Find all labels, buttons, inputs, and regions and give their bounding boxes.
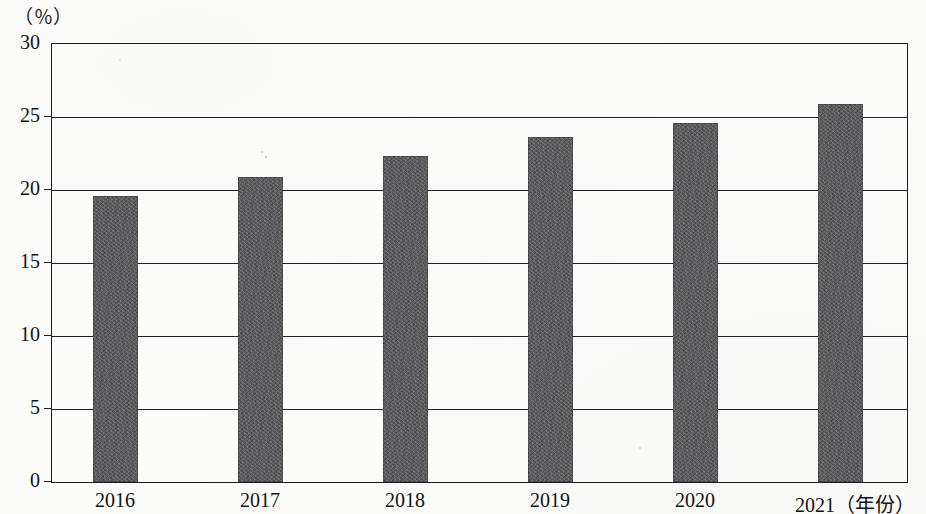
y-tick-mark-20 bbox=[44, 189, 51, 190]
bar-2017 bbox=[238, 177, 283, 482]
gridline-5 bbox=[52, 117, 907, 118]
y-tick-mark-25 bbox=[44, 116, 51, 117]
y-tick-label-5: 5 bbox=[30, 396, 40, 419]
y-tick-label-15: 15 bbox=[20, 250, 40, 273]
plot-area bbox=[51, 43, 908, 483]
y-tick-label-25: 25 bbox=[20, 104, 40, 127]
x-tick-label-2016: 2016 bbox=[95, 489, 135, 512]
y-tick-label-10: 10 bbox=[20, 323, 40, 346]
y-tick-mark-15 bbox=[44, 262, 51, 263]
bar-2018 bbox=[383, 156, 428, 482]
y-tick-mark-10 bbox=[44, 335, 51, 336]
y-tick-label-30: 30 bbox=[20, 31, 40, 54]
x-tick-label-2019: 2019 bbox=[530, 489, 570, 512]
x-tick-label-2020: 2020 bbox=[675, 489, 715, 512]
gridline-20 bbox=[52, 336, 907, 337]
y-axis-unit-label: （％） bbox=[14, 2, 73, 29]
x-tick-label-2017: 2017 bbox=[240, 489, 280, 512]
x-tick-label-2018: 2018 bbox=[385, 489, 425, 512]
bar-2021 bbox=[818, 104, 863, 482]
y-axis-ticks: 0 5 10 15 20 25 30 bbox=[0, 43, 51, 483]
gridline-25 bbox=[52, 409, 907, 410]
y-tick-label-20: 20 bbox=[20, 177, 40, 200]
gridline-15 bbox=[52, 263, 907, 264]
bar-2016 bbox=[93, 196, 138, 482]
bar-2020 bbox=[673, 123, 718, 482]
x-tick-label-2021: 2021 bbox=[795, 494, 835, 514]
x-tick-label-2021-group: 2021（年份） bbox=[795, 489, 915, 514]
y-tick-label-0: 0 bbox=[30, 469, 40, 492]
y-tick-mark-5 bbox=[44, 408, 51, 409]
gridline-10 bbox=[52, 190, 907, 191]
x-axis-unit-label: （年份） bbox=[835, 494, 915, 514]
bar-2019 bbox=[528, 137, 573, 482]
y-tick-mark-0 bbox=[44, 481, 51, 482]
bar-chart-figure: （％） 0 5 10 15 20 25 30 bbox=[0, 0, 926, 514]
